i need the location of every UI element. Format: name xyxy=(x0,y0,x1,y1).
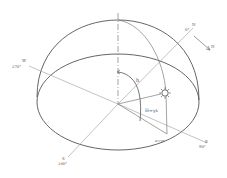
azimuth-label: H=γs xyxy=(145,108,158,113)
south-degree-label: 180° xyxy=(58,161,67,166)
west-degree-label: 270° xyxy=(12,64,21,69)
east-degree-label: 90° xyxy=(199,144,206,149)
west-label: W xyxy=(22,58,27,63)
north-arrow-label: N xyxy=(211,44,215,49)
north-degree-label: 0° xyxy=(185,27,189,32)
north-axis xyxy=(118,28,193,104)
north-label: N xyxy=(192,22,196,27)
south-axis xyxy=(68,104,118,157)
sun-icon xyxy=(159,87,171,99)
sun-position-diagram: h H=γs W 270° N 0° E 90° S 180° a=γs N xyxy=(0,0,227,178)
sun-meridian-arc xyxy=(118,20,167,134)
azimuth-point-label: a=γs xyxy=(155,138,165,143)
north-arrow-icon xyxy=(194,36,210,50)
sun-projection xyxy=(118,104,167,134)
